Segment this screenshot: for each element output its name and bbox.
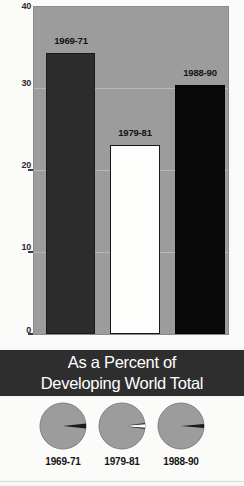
pie-label-1969-71: 1969-71 [30,456,96,467]
pie-1979-81-icon [98,402,146,450]
infographic-root: 40 30 20 10 0 1969-71 1979-81 1988-90 As… [0,0,244,486]
banner-title-line-2: Developing World Total [41,373,203,394]
y-axis-tick-label-40: 40 [5,2,31,11]
banner-title-line-1: As a Percent of [68,352,176,373]
bar-label-1979-81: 1979-81 [110,128,160,138]
pie-label-1988-90: 1988-90 [148,456,214,467]
bar-label-1988-90: 1988-90 [174,68,226,78]
bar-label-1969-71: 1969-71 [46,36,96,46]
pie-1988-90 [157,402,205,450]
pie-panel-1979-81: 1979-81 [89,402,155,467]
bar-1979-81 [110,145,160,334]
bottom-divider [0,481,244,482]
pie-1988-90-icon [157,402,205,450]
pie-1969-71-icon [39,402,87,450]
pie-chart-row: 1969-71 1979-81 1988-90 [0,398,244,480]
bar-1969-71 [46,53,95,334]
bar-chart: 40 30 20 10 0 1969-71 1979-81 1988-90 [0,0,244,348]
y-axis-tick-label-30: 30 [5,79,31,88]
pie-label-1979-81: 1979-81 [89,456,155,467]
pie-panel-1988-90: 1988-90 [148,402,214,467]
pie-panel-1969-71: 1969-71 [30,402,96,467]
bar-1988-90 [175,85,225,334]
plot-area [33,6,229,335]
pie-1969-71 [39,402,87,450]
pie-1979-81 [98,402,146,450]
banner: As a Percent of Developing World Total [0,350,244,396]
